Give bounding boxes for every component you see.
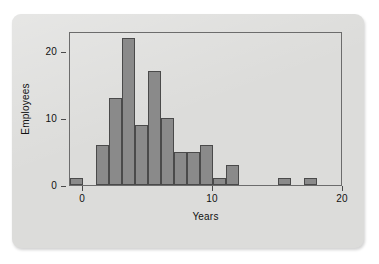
histogram-bar xyxy=(122,38,135,185)
y-axis-tick-label: 20 xyxy=(45,47,61,57)
y-axis-tick-mark xyxy=(61,119,66,120)
histogram-bar xyxy=(109,98,122,185)
plot-area xyxy=(69,32,342,186)
histogram-bar xyxy=(187,152,200,185)
histogram-bar xyxy=(70,178,83,185)
histogram-bar xyxy=(161,118,174,185)
y-axis-tick-label: 10 xyxy=(45,114,61,124)
histogram-bar xyxy=(135,125,148,185)
y-axis-tick-mark xyxy=(61,52,66,53)
x-axis-title: Years xyxy=(69,211,342,222)
histogram-bar xyxy=(213,178,226,185)
histogram-bar xyxy=(174,152,187,185)
x-axis-tick-label: 20 xyxy=(336,194,348,204)
histogram-bars xyxy=(70,33,341,185)
x-axis-tick-mark xyxy=(82,186,83,191)
figure-root: Employees 01020 01020 Years xyxy=(0,0,379,264)
histogram-bar xyxy=(304,178,317,185)
histogram-bar xyxy=(226,165,239,185)
y-axis-tick-mark xyxy=(61,186,66,187)
histogram-bar xyxy=(200,145,213,185)
histogram-bar xyxy=(96,145,109,185)
x-axis-tick-mark xyxy=(342,186,343,191)
histogram-bar xyxy=(148,71,161,185)
y-axis-title: Employees xyxy=(20,83,31,134)
x-axis-tick-mark xyxy=(212,186,213,191)
y-axis-tick-label: 0 xyxy=(51,181,61,191)
histogram-bar xyxy=(278,178,291,185)
x-axis-tick-label: 0 xyxy=(79,194,85,204)
x-axis-tick-label: 10 xyxy=(206,194,218,204)
